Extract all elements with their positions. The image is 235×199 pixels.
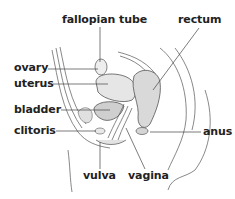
label-bladder: bladder <box>14 104 61 116</box>
rectum-shape <box>133 70 160 127</box>
ovary-shape <box>95 59 107 75</box>
uterus-shape <box>96 74 136 102</box>
anatomy-diagram: fallopian tube rectum ovary uterus bladd… <box>0 0 235 199</box>
anus-shape <box>136 128 148 135</box>
label-rectum: rectum <box>178 14 221 26</box>
label-vagina: vagina <box>128 170 169 182</box>
label-ovary: ovary <box>14 62 48 74</box>
label-fallopian-tube: fallopian tube <box>62 14 147 26</box>
label-clitoris: clitoris <box>14 125 56 137</box>
label-uterus: uterus <box>14 78 54 90</box>
label-anus: anus <box>203 126 232 138</box>
label-vulva: vulva <box>83 170 116 182</box>
bladder-shape <box>94 102 124 121</box>
anatomy-illustration <box>0 0 235 199</box>
